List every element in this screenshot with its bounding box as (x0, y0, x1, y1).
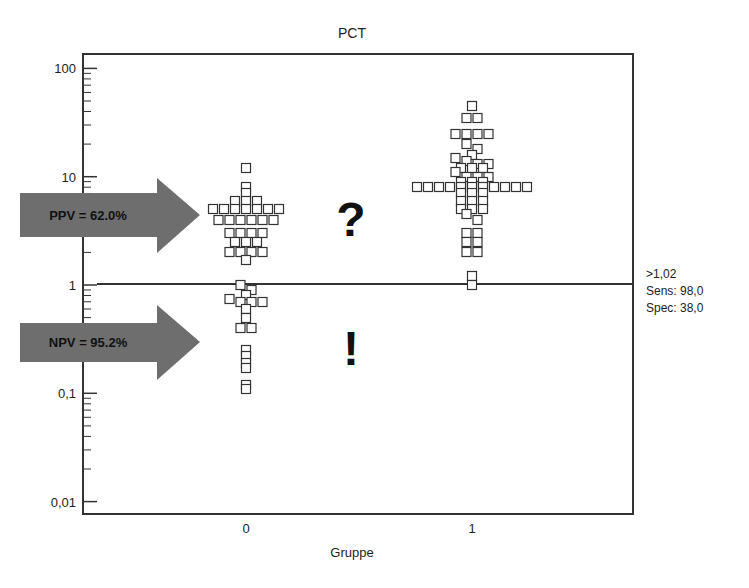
data-point (451, 130, 460, 139)
data-point (247, 324, 256, 333)
ppv-label: PPV = 62.0% (49, 208, 127, 223)
sensitivity-label: Sens: 98,0 (646, 284, 704, 298)
data-point (242, 256, 251, 265)
data-point (258, 216, 267, 225)
data-point (242, 205, 251, 214)
data-point (462, 114, 471, 123)
y-tick-label: 0,01 (51, 495, 76, 510)
pct-scatter-chart: PCT 1001010,10,01 01 PPV = 62.0% NPV = 9… (0, 0, 749, 588)
data-point (236, 281, 245, 290)
data-point (209, 205, 218, 214)
data-point (468, 272, 477, 281)
data-point (275, 205, 284, 214)
data-point (484, 130, 493, 139)
data-point (473, 130, 482, 139)
data-point (236, 216, 245, 225)
y-tick-label: 10 (62, 170, 76, 185)
data-point (236, 229, 245, 238)
data-point (264, 205, 273, 214)
data-point (468, 102, 477, 111)
x-axis: 01 (242, 521, 475, 536)
data-point (242, 385, 251, 394)
x-axis-label: Gruppe (330, 545, 373, 560)
data-point (473, 114, 482, 123)
data-point (462, 130, 471, 139)
data-point (462, 140, 471, 149)
data-point (468, 164, 477, 173)
data-point (231, 238, 240, 247)
data-point (473, 229, 482, 238)
data-point (225, 295, 234, 304)
data-point (479, 164, 488, 173)
data-point (462, 248, 471, 257)
specificity-label: Spec: 38,0 (646, 301, 704, 315)
data-point (512, 183, 521, 192)
data-point (225, 216, 234, 225)
data-point (501, 183, 510, 192)
data-point (446, 183, 455, 192)
data-point (214, 216, 223, 225)
data-point (462, 210, 471, 219)
question-mark: ? (336, 193, 365, 246)
npv-arrow: NPV = 95.2% (20, 305, 200, 380)
data-point (247, 229, 256, 238)
data-point (247, 216, 256, 225)
data-point (424, 183, 433, 192)
data-point (236, 324, 245, 333)
data-point (253, 205, 262, 214)
cutoff-value-label: >1,02 (646, 267, 677, 281)
data-point (451, 154, 460, 163)
data-point (435, 183, 444, 192)
y-tick-label: 0,1 (58, 386, 76, 401)
data-point (413, 183, 422, 192)
data-point (242, 305, 251, 314)
data-point (242, 164, 251, 173)
data-point (242, 238, 251, 247)
x-tick-label: 1 (468, 521, 475, 536)
data-point (473, 216, 482, 225)
x-tick-label: 0 (242, 521, 249, 536)
data-point (258, 248, 267, 257)
data-point (242, 314, 251, 323)
data-point (242, 364, 251, 373)
data-points (209, 102, 532, 394)
data-point (253, 238, 262, 247)
ppv-arrow: PPV = 62.0% (20, 178, 200, 253)
data-point (258, 229, 267, 238)
data-point (220, 205, 229, 214)
npv-label: NPV = 95.2% (49, 335, 128, 350)
y-tick-label: 1 (69, 278, 76, 293)
data-point (473, 248, 482, 257)
data-point (451, 168, 460, 177)
y-tick-label: 100 (54, 61, 76, 76)
data-point (462, 238, 471, 247)
exclamation-mark: ! (343, 322, 359, 375)
data-point (269, 216, 278, 225)
data-point (490, 183, 499, 192)
data-point (225, 248, 234, 257)
data-point (479, 205, 488, 214)
data-point (468, 281, 477, 290)
data-point (258, 298, 267, 307)
data-point (231, 205, 240, 214)
y-axis: 1001010,10,01 (51, 61, 97, 509)
data-point (462, 229, 471, 238)
data-point (473, 238, 482, 247)
data-point (225, 229, 234, 238)
chart-title: PCT (338, 25, 366, 41)
data-point (523, 183, 532, 192)
